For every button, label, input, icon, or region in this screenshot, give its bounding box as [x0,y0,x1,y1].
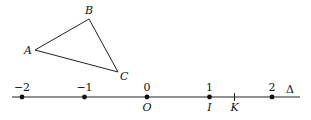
triangle-abc: A B C [23,4,129,83]
tick-dot [82,95,87,100]
vertex-label-a: A [23,44,32,57]
tick-label: 1 [206,81,213,94]
tick-dot [145,95,150,100]
mark-label: K [229,101,239,114]
diagram: A B C Δ −2−10O1I2K [0,0,311,120]
point-label: I [206,101,212,114]
tick-label: −2 [14,81,30,94]
tick-label: 2 [269,81,276,94]
number-line: Δ −2−10O1I2K [12,81,300,114]
line-name-label: Δ [286,83,294,96]
triangle-outline [35,19,118,72]
vertex-label-b: B [84,4,93,17]
tick-dot [20,95,25,100]
vertex-label-c: C [120,70,129,83]
tick-dot [270,95,275,100]
point-label: O [142,101,151,114]
tick-label: 0 [144,81,151,94]
tick-dot [207,95,212,100]
tick-label: −1 [76,81,92,94]
